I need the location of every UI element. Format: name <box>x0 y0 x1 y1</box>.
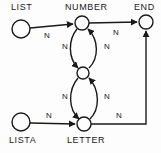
edge-letter-middle <box>89 78 97 119</box>
edge-label-number-end: N <box>113 29 119 37</box>
node-middle[interactable] <box>77 67 89 79</box>
edge-label-lower-loop-right: N <box>104 93 110 101</box>
edge-middle-letter <box>71 78 79 119</box>
node-lista[interactable] <box>12 113 30 131</box>
edge-label-lista-letter: N <box>46 112 52 120</box>
node-label-letter: LETTER <box>67 136 105 145</box>
node-end[interactable] <box>139 15 153 29</box>
edge-label-upper-loop-left: N <box>62 43 68 51</box>
edge-list-number <box>30 24 73 28</box>
edge-middle-number <box>88 29 96 68</box>
node-list[interactable] <box>12 20 30 38</box>
edge-number-middle <box>70 29 78 68</box>
edge-number-end <box>89 22 137 23</box>
node-letter[interactable] <box>77 117 91 131</box>
edge-label-list-number: N <box>44 32 50 40</box>
node-label-list: LIST <box>11 3 32 12</box>
edge-label-upper-loop-right: N <box>104 43 110 51</box>
state-transition-diagram: LIST NUMBER END LISTA LETTER N N N N N N… <box>0 0 161 153</box>
node-label-number: NUMBER <box>65 3 108 12</box>
edge-lista-letter <box>30 123 75 124</box>
edge-label-lower-loop-left: N <box>62 93 68 101</box>
node-label-lista: LISTA <box>9 136 36 145</box>
node-label-end: END <box>134 3 155 12</box>
diagram-canvas <box>0 0 161 153</box>
edge-label-letter-end: N <box>116 112 122 120</box>
node-number[interactable] <box>75 16 89 30</box>
